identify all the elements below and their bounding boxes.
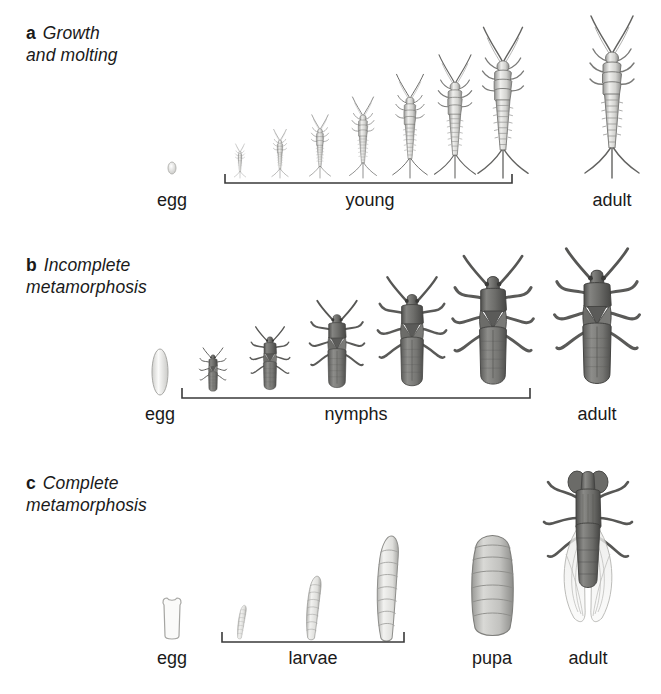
panel-c-title-line1: Complete	[43, 473, 119, 493]
stage-label-egg-b: egg	[145, 404, 175, 425]
panel-c-letter: c	[26, 473, 43, 493]
stage-label-egg-a: egg	[157, 190, 187, 211]
young-stage-5	[393, 74, 428, 178]
panel-c-title-line2: metamorphosis	[26, 494, 147, 516]
panel-b-letter: b	[26, 255, 44, 275]
stage-label-adult-c: adult	[568, 648, 607, 669]
panel-complete-metamorphosis: cCompletemetamorphosis	[0, 450, 661, 694]
young-stage-2	[272, 129, 288, 178]
nymph-series-b	[199, 256, 533, 391]
panel-a-title-line2: and molting	[26, 44, 118, 66]
egg-b	[152, 349, 168, 395]
nymph-stage-2	[250, 327, 290, 390]
adult-a	[585, 16, 639, 178]
panel-b-title-line2: metamorphosis	[26, 276, 147, 298]
young-stage-6	[434, 55, 475, 178]
panel-a-title-line1: Growth	[43, 23, 100, 43]
panel-incomplete-metamorphosis: bIncompletemetamorphosis	[0, 232, 661, 450]
young-stage-4	[350, 97, 377, 178]
bracket-larvae	[222, 632, 404, 642]
young-stage-1	[234, 144, 245, 178]
stage-label-adult-a: adult	[592, 190, 631, 211]
stage-label-nymphs: nymphs	[324, 404, 387, 425]
stage-label-egg-c: egg	[157, 648, 187, 669]
bracket-nymphs	[182, 388, 530, 398]
stage-label-young: young	[345, 190, 394, 211]
panel-growth-and-molting: aGrowthand molting	[0, 0, 661, 232]
panel-a-heading: aGrowthand molting	[26, 22, 118, 66]
nymph-stage-3	[310, 301, 365, 388]
adult-b	[555, 249, 640, 384]
panel-c-heading: cCompletemetamorphosis	[26, 472, 147, 516]
nymph-stage-1	[199, 348, 226, 391]
larva-stage-2	[305, 576, 321, 640]
larva-stage-3	[377, 536, 398, 641]
pupa-c	[472, 536, 514, 636]
young-stage-7	[478, 27, 528, 178]
egg-a	[168, 162, 176, 174]
young-stage-3	[309, 115, 330, 178]
stage-label-pupa: pupa	[472, 648, 512, 669]
bracket-young	[225, 174, 512, 183]
panel-a-letter: a	[26, 23, 43, 43]
adult-c	[544, 471, 632, 622]
stage-label-adult-b: adult	[577, 404, 616, 425]
nymph-stage-4	[378, 277, 446, 386]
nymph-stage-5	[453, 256, 534, 384]
panel-b-title-line1: Incomplete	[44, 255, 131, 275]
egg-c	[163, 598, 181, 639]
stage-label-larvae: larvae	[288, 648, 337, 669]
panel-b-heading: bIncompletemetamorphosis	[26, 254, 147, 298]
larva-stage-1	[236, 605, 246, 640]
larva-series-c	[236, 536, 398, 641]
young-series-a	[234, 27, 528, 178]
